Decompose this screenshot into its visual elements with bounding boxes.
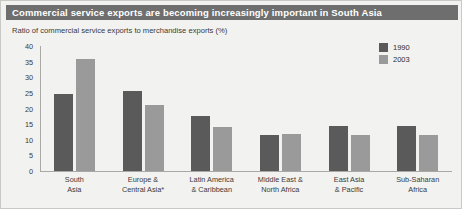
legend-swatch-icon — [379, 55, 388, 64]
legend-label: 1990 — [393, 43, 410, 52]
y-axis-tick: 20 — [11, 104, 37, 113]
x-axis-category-label: SouthAsia — [40, 175, 109, 195]
bar-group — [246, 46, 315, 171]
bar-2003 — [351, 135, 370, 171]
chart-legend: 19902003 — [379, 43, 410, 67]
bar-1990 — [123, 91, 142, 171]
x-axis-category-labels: SouthAsiaEurope &Central Asia*Latin Amer… — [40, 175, 452, 195]
y-axis-tick: 30 — [11, 73, 37, 82]
bar-1990 — [260, 135, 279, 171]
x-axis-category-label: Latin America& Caribbean — [177, 175, 246, 195]
y-axis-tick: 35 — [11, 57, 37, 66]
y-axis-tick: 10 — [11, 135, 37, 144]
x-axis-category-label: Sub-SaharanAfrica — [383, 175, 452, 195]
bar-1990 — [54, 94, 73, 171]
x-axis-category-label: East Asia& Pacific — [315, 175, 384, 195]
legend-entry: 2003 — [379, 55, 410, 64]
legend-label: 2003 — [393, 55, 410, 64]
bar-1990 — [397, 126, 416, 171]
bar-group — [109, 46, 178, 171]
x-axis-line — [40, 171, 452, 172]
chart-title-bar: Commercial service exports are becoming … — [6, 5, 458, 20]
y-axis-tick: 5 — [11, 151, 37, 160]
bar-2003 — [145, 105, 164, 171]
y-axis-tick: 25 — [11, 88, 37, 97]
x-axis-category-label: Middle East &North Africa — [246, 175, 315, 195]
y-axis-tick: 15 — [11, 120, 37, 129]
x-axis-category-label: Europe &Central Asia* — [109, 175, 178, 195]
page-title: Commercial service exports are becoming … — [12, 7, 382, 18]
chart-figure: Commercial service exports are becoming … — [0, 0, 462, 209]
bar-group — [315, 46, 384, 171]
chart-subtitle: Ratio of commercial service exports to m… — [12, 26, 227, 35]
bar-1990 — [191, 116, 210, 171]
bar-group — [177, 46, 246, 171]
legend-swatch-icon — [379, 43, 388, 52]
bar-2003 — [213, 127, 232, 171]
legend-entry: 1990 — [379, 43, 410, 52]
bar-1990 — [329, 126, 348, 171]
y-axis-tick-labels: 0510152025303540 — [11, 46, 37, 171]
y-axis-tick: 40 — [11, 42, 37, 51]
y-axis-tick: 0 — [11, 167, 37, 176]
bar-2003 — [282, 134, 301, 172]
bar-2003 — [419, 135, 438, 171]
bar-2003 — [76, 59, 95, 172]
bar-group — [40, 46, 109, 171]
